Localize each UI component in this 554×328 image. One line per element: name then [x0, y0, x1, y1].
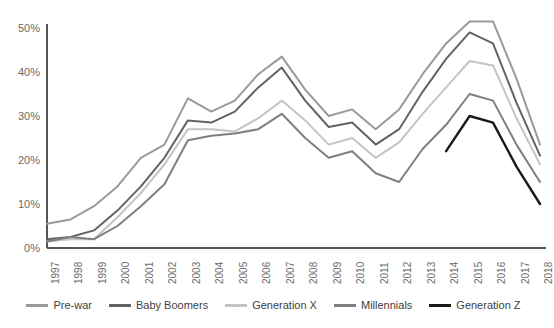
x-tick-label-2012: 2012: [403, 262, 413, 284]
legend-item-pre-war[interactable]: Pre-war: [26, 299, 92, 311]
x-tick-label-2005: 2005: [239, 262, 249, 284]
x-tick-label-2004: 2004: [215, 262, 225, 284]
series-line-baby-boomers: [47, 32, 540, 239]
x-tick-label-2017: 2017: [521, 262, 531, 284]
legend-swatch-icon: [429, 304, 451, 307]
x-tick-label-2018: 2018: [544, 262, 554, 284]
legend-swatch-icon: [334, 304, 356, 307]
x-tick-label-2010: 2010: [356, 262, 366, 284]
series-line-millennials: [47, 94, 540, 241]
x-tick-label-2015: 2015: [474, 262, 484, 284]
legend-label: Pre-war: [53, 299, 92, 311]
x-tick-label-2002: 2002: [168, 262, 178, 284]
legend-item-generation-z[interactable]: Generation Z: [429, 299, 520, 311]
x-tick-label-2000: 2000: [121, 262, 131, 284]
series-line-generation-x: [47, 61, 540, 241]
legend-label: Generation Z: [456, 299, 520, 311]
x-tick-label-2011: 2011: [380, 262, 390, 284]
legend-swatch-icon: [109, 304, 131, 307]
x-tick-label-2006: 2006: [262, 262, 272, 284]
legend-label: Millennials: [361, 299, 412, 311]
x-tick-label-2008: 2008: [309, 262, 319, 284]
x-tick-label-1999: 1999: [98, 262, 108, 284]
x-tick-label-2016: 2016: [497, 262, 507, 284]
x-tick-label-2014: 2014: [450, 262, 460, 284]
legend-swatch-icon: [225, 304, 247, 307]
x-tick-label-2013: 2013: [427, 262, 437, 284]
legend-item-baby-boomers[interactable]: Baby Boomers: [109, 299, 208, 311]
x-tick-label-2003: 2003: [192, 262, 202, 284]
legend-label: Generation X: [252, 299, 317, 311]
legend-label: Baby Boomers: [136, 299, 208, 311]
x-tick-label-1997: 1997: [51, 262, 61, 284]
x-tick-label-1998: 1998: [74, 262, 84, 284]
legend-swatch-icon: [26, 304, 48, 307]
legend-item-generation-x[interactable]: Generation X: [225, 299, 317, 311]
x-tick-label-2009: 2009: [333, 262, 343, 284]
x-tick-label-2007: 2007: [286, 262, 296, 284]
chart-legend: Pre-warBaby BoomersGeneration XMillennia…: [0, 294, 547, 316]
x-tick-label-2001: 2001: [145, 262, 155, 284]
legend-item-millennials[interactable]: Millennials: [334, 299, 412, 311]
